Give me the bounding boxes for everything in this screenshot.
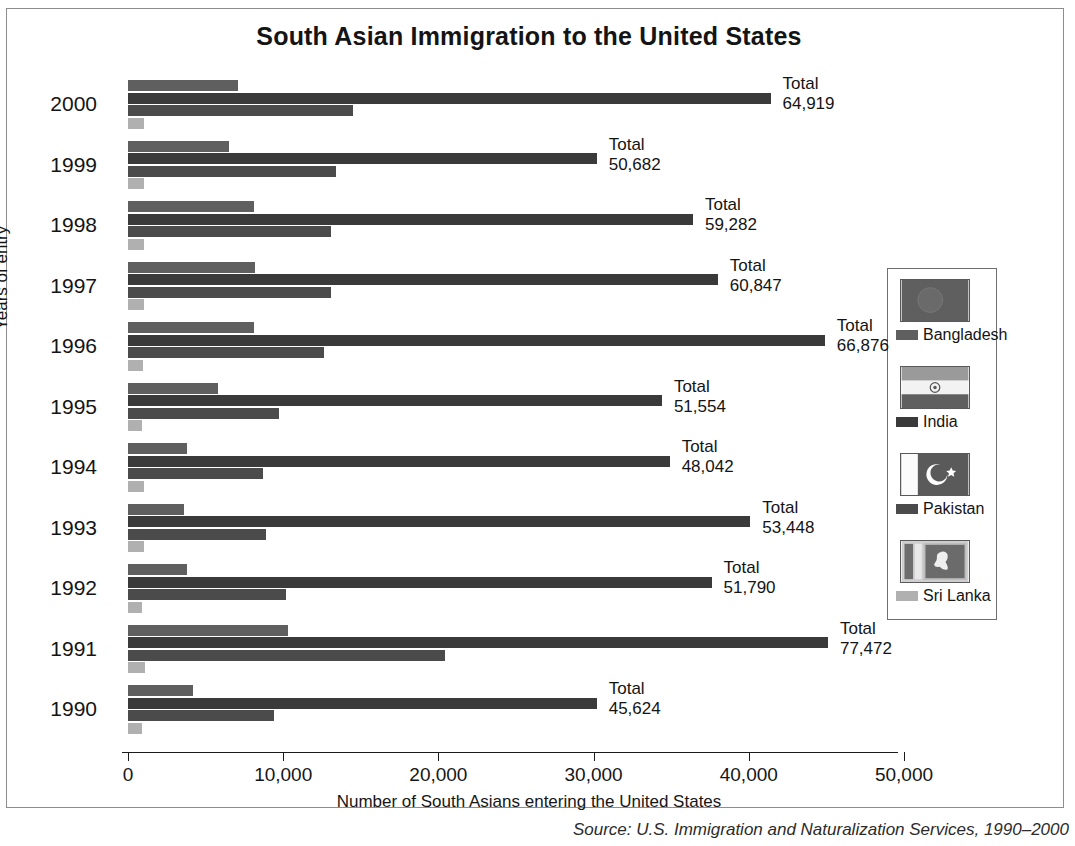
x-axis-label: Number of South Asians entering the Unit… (0, 792, 1058, 812)
bar-sri-lanka (128, 299, 144, 310)
x-tick (904, 752, 905, 761)
bar-sri-lanka (128, 541, 144, 552)
year-group: 1995Total51,554 (0, 383, 1058, 444)
total-word: Total (705, 195, 757, 215)
total-value: 60,847 (730, 276, 782, 296)
total-word: Total (840, 619, 892, 639)
bar-india (128, 516, 750, 527)
total-annotation: Total64,919 (783, 74, 835, 114)
total-value: 51,554 (674, 397, 726, 417)
bar-bangladesh (128, 80, 238, 91)
bar-india (128, 335, 825, 346)
bar-sri-lanka (128, 178, 144, 189)
year-group: 1994Total48,042 (0, 443, 1058, 504)
chart-title: South Asian Immigration to the United St… (0, 22, 1058, 51)
bar-bangladesh (128, 262, 255, 273)
bar-pakistan (128, 226, 331, 237)
total-annotation: Total50,682 (609, 135, 661, 175)
year-label: 1992 (50, 576, 97, 600)
x-tick (283, 752, 284, 761)
x-tick (438, 752, 439, 761)
bar-pakistan (128, 710, 274, 721)
year-group: 1996Total66,876 (0, 322, 1058, 383)
total-value: 66,876 (837, 336, 889, 356)
total-word: Total (674, 377, 726, 397)
total-annotation: Total53,448 (762, 498, 814, 538)
total-value: 64,919 (783, 94, 835, 114)
total-annotation: Total77,472 (840, 619, 892, 659)
bar-bangladesh (128, 625, 288, 636)
year-group: 1998Total59,282 (0, 201, 1058, 262)
bar-pakistan (128, 589, 286, 600)
x-tick (749, 752, 750, 761)
year-label: 1993 (50, 516, 97, 540)
chart-page: South Asian Immigration to the United St… (0, 0, 1075, 846)
bar-pakistan (128, 529, 266, 540)
year-group: 2000Total64,919 (0, 80, 1058, 141)
bar-sri-lanka (128, 662, 145, 673)
year-label: 1990 (50, 697, 97, 721)
x-axis-line (122, 752, 898, 753)
total-annotation: Total51,554 (674, 377, 726, 417)
total-word: Total (609, 135, 661, 155)
year-label: 1991 (50, 637, 97, 661)
year-group: 1990Total45,624 (0, 685, 1058, 746)
bar-pakistan (128, 166, 336, 177)
bar-sri-lanka (128, 481, 144, 492)
bar-india (128, 153, 597, 164)
total-word: Total (724, 558, 776, 578)
bar-bangladesh (128, 322, 254, 333)
bar-pakistan (128, 650, 445, 661)
total-value: 48,042 (682, 457, 734, 477)
bar-bangladesh (128, 504, 184, 515)
source-note: Source: U.S. Immigration and Naturalizat… (0, 820, 1069, 840)
bar-india (128, 456, 670, 467)
year-group: 1993Total53,448 (0, 504, 1058, 565)
bar-sri-lanka (128, 602, 142, 613)
bar-india (128, 577, 712, 588)
x-tick-label: 10,000 (254, 764, 312, 786)
total-annotation: Total48,042 (682, 437, 734, 477)
bar-sri-lanka (128, 360, 143, 371)
x-tick (128, 752, 129, 761)
total-value: 51,790 (724, 578, 776, 598)
bar-pakistan (128, 408, 279, 419)
x-tick (594, 752, 595, 761)
bar-india (128, 395, 662, 406)
total-word: Total (609, 679, 661, 699)
total-annotation: Total60,847 (730, 256, 782, 296)
year-label: 1998 (50, 213, 97, 237)
total-value: 77,472 (840, 639, 892, 659)
total-value: 45,624 (609, 699, 661, 719)
total-value: 59,282 (705, 215, 757, 235)
year-label: 1999 (50, 153, 97, 177)
bar-sri-lanka (128, 239, 144, 250)
bar-india (128, 698, 597, 709)
total-value: 53,448 (762, 518, 814, 538)
x-tick-label: 20,000 (409, 764, 467, 786)
total-word: Total (783, 74, 835, 94)
total-annotation: Total59,282 (705, 195, 757, 235)
x-tick-label: 40,000 (720, 764, 778, 786)
bar-bangladesh (128, 564, 187, 575)
bar-pakistan (128, 468, 263, 479)
bar-bangladesh (128, 685, 193, 696)
bar-bangladesh (128, 443, 187, 454)
x-tick-label: 30,000 (565, 764, 623, 786)
year-group: 1992Total51,790 (0, 564, 1058, 625)
bar-sri-lanka (128, 118, 144, 129)
bar-india (128, 274, 718, 285)
bar-india (128, 93, 771, 104)
year-label: 2000 (50, 92, 97, 116)
x-tick-label: 50,000 (875, 764, 933, 786)
bar-sri-lanka (128, 723, 142, 734)
bar-bangladesh (128, 383, 218, 394)
x-tick-label: 0 (123, 764, 134, 786)
bar-india (128, 214, 693, 225)
year-label: 1996 (50, 334, 97, 358)
year-group: 1997Total60,847 (0, 262, 1058, 323)
total-word: Total (682, 437, 734, 457)
year-label: 1997 (50, 274, 97, 298)
total-word: Total (730, 256, 782, 276)
year-label: 1994 (50, 455, 97, 479)
